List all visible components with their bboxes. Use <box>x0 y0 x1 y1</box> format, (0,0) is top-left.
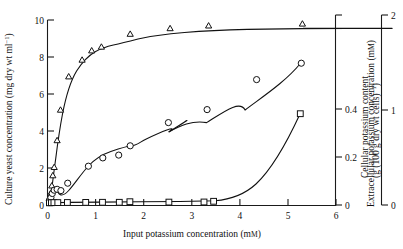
data-point-triangle <box>98 44 104 49</box>
y-right-outer-title-line2-main: (g (100 g dry wt cells) <box>371 93 382 178</box>
y-right-outer-title-line2: (g (100 g dry wt cells)−1) <box>370 83 382 178</box>
data-point-triangle <box>51 164 57 169</box>
data-point-triangle <box>57 107 63 112</box>
series-square-curve <box>49 114 300 203</box>
data-point-triangle <box>66 74 72 79</box>
data-point-square <box>297 111 303 117</box>
series-square-markers <box>47 111 304 206</box>
data-point-square <box>166 199 172 205</box>
data-point-circle <box>58 188 64 194</box>
data-point-triangle <box>206 23 212 28</box>
data-point-triangle <box>127 31 133 36</box>
y-right-outer-title-line2-tail: ) <box>371 83 382 86</box>
x-ticklabel-1: 1 <box>93 211 98 221</box>
y-left-axis-title-sup: −1 <box>3 37 10 44</box>
y-right-inner-ticklabel-0.4: 0.4 <box>345 105 357 115</box>
data-point-square <box>55 200 61 206</box>
data-point-circle <box>204 107 210 113</box>
data-point-triangle <box>54 137 60 142</box>
data-point-square <box>65 200 71 206</box>
y-right-outer-axis: 2 1 0 <box>382 11 397 211</box>
chart-svg: 10 8 6 4 2 0 Culture yeast concentration… <box>0 0 403 249</box>
y-left-axis-title: Culture yeast concentration (mg dry wt m… <box>3 33 15 205</box>
y-left-axis-title-tail: ) <box>4 33 15 36</box>
x-ticklabel-2: 2 <box>141 211 146 221</box>
data-point-circle <box>65 180 71 186</box>
series-circle-markers <box>46 60 304 203</box>
y-right-outer-axis-title-group: Cellular potassium content (g (100 g dry… <box>360 76 382 178</box>
x-axis: 0 1 2 3 4 5 6 Input potassium concentrat… <box>45 199 339 240</box>
series-triangle-markers <box>46 21 305 202</box>
data-point-circle <box>127 143 133 149</box>
y-right-inner-ticklabel-0.2: 0.2 <box>345 153 357 163</box>
data-point-circle <box>116 152 122 158</box>
data-point-triangle <box>299 21 305 26</box>
y-left-axis: 10 8 6 4 2 0 Culture yeast concentration… <box>3 16 54 211</box>
data-point-square <box>100 199 106 205</box>
y-right-inner-ticklabel-0: 0 <box>345 201 350 211</box>
data-point-square <box>83 200 89 206</box>
y-left-ticklabel-0: 0 <box>39 201 44 211</box>
data-point-triangle <box>89 48 95 53</box>
series-cellular-potassium-content <box>46 21 392 202</box>
series-culture-yeast-concentration <box>46 60 304 203</box>
data-point-triangle <box>50 172 56 177</box>
data-point-triangle <box>79 57 85 62</box>
data-point-circle <box>254 77 260 83</box>
data-point-square <box>201 199 207 205</box>
y-right-inner-title-tail: ) <box>366 40 377 43</box>
data-point-circle <box>100 155 106 161</box>
data-point-square <box>116 199 122 205</box>
figure-panel: 10 8 6 4 2 0 Culture yeast concentration… <box>0 0 403 249</box>
y-left-ticklabel-4: 4 <box>39 127 44 137</box>
y-left-axis-title-main: Culture yeast concentration (mg dry wt m… <box>4 43 15 205</box>
y-right-outer-ticklabel-2: 2 <box>391 11 396 21</box>
x-ticklabel-4: 4 <box>238 211 243 221</box>
y-left-ticklabel-8: 8 <box>39 53 44 63</box>
y-left-ticklabel-10: 10 <box>35 16 45 26</box>
y-left-ticklabel-2: 2 <box>39 164 44 174</box>
x-ticklabel-5: 5 <box>286 211 291 221</box>
data-point-circle <box>85 163 91 169</box>
series-extracellular-potassium <box>47 111 304 206</box>
x-axis-title-main: Input potassium concentration (m <box>123 229 252 240</box>
data-point-square <box>127 199 133 205</box>
x-ticklabel-6: 6 <box>334 211 339 221</box>
x-ticklabel-0: 0 <box>45 211 50 221</box>
y-left-ticklabel-6: 6 <box>39 90 44 100</box>
x-axis-title: Input potassium concentration (mM) <box>123 229 261 240</box>
data-point-square <box>211 198 217 204</box>
x-ticklabel-3: 3 <box>189 211 194 221</box>
data-point-triangle <box>167 25 173 30</box>
y-right-outer-title-line2-sup: −1 <box>370 86 377 93</box>
series-circle-curve <box>49 120 187 200</box>
data-point-circle <box>165 120 171 126</box>
series-circle-curve-upper <box>169 64 301 133</box>
y-right-outer-title-line1: Cellular potassium content <box>360 76 370 178</box>
x-axis-title-tail: ) <box>258 229 261 240</box>
y-right-outer-ticklabel-0: 0 <box>391 201 396 211</box>
data-point-circle <box>298 60 304 66</box>
y-right-outer-ticklabel-1: 1 <box>391 106 396 116</box>
